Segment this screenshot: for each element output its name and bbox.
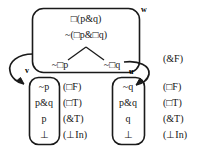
rule-v-1: (□F) [63,82,81,92]
world-label-v: v [25,67,29,75]
formula-v-1: ~p [39,82,49,92]
rule-v-2: (□T) [63,98,82,108]
formula-u-1: ~q [123,82,133,92]
rule-u-1: (□F) [163,82,181,92]
rule-u-2: (□T) [163,98,182,108]
branch-fork-left [68,47,86,60]
formula-w-2: ~(□p&□q) [65,30,107,40]
branch-formula-left: ~□p [52,60,68,70]
branch-formula-right: ~□q [104,60,120,70]
rule-annotation-branch: (&F) [163,54,183,64]
rule-v-4: (⊥In) [63,130,87,140]
formula-v-4: ⊥ [40,130,49,140]
modal-tableau-diagram: w □(p&q) ~(□p&□q) ~□p ~□q (&F) v ~p p&q … [0,0,207,151]
formula-v-2: p&q [35,98,53,108]
formula-u-4: ⊥ [124,130,133,140]
world-label-u: u [129,68,133,76]
formula-u-3: q [126,114,131,124]
world-label-w: w [141,6,147,14]
formula-u-2: p&q [119,98,137,108]
rule-u-3: (&T) [163,114,184,124]
rule-u-4: (⊥In) [163,130,187,140]
rule-v-3: (&T) [63,114,84,124]
formula-w-1: □(p&q) [71,14,101,24]
branch-fork-right [86,47,104,60]
formula-v-3: p [42,114,47,124]
